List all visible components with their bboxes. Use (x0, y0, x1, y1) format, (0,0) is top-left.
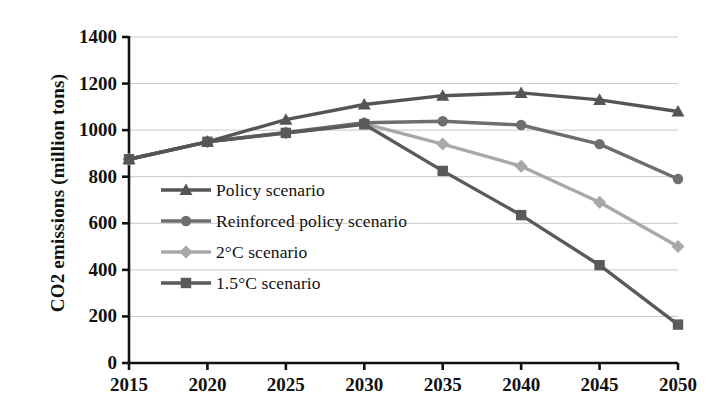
legend-swatch-diamond-icon (160, 243, 212, 261)
x-tick-label: 2020 (188, 374, 226, 396)
data-point-square (594, 260, 604, 270)
legend-item[interactable]: Reinforced policy scenario (160, 211, 407, 231)
x-tick-label: 2025 (267, 374, 305, 396)
x-tick-label: 2050 (659, 374, 697, 396)
legend-item[interactable]: Policy scenario (160, 180, 407, 200)
x-tick-label: 2040 (502, 374, 540, 396)
data-point-circle (673, 174, 683, 184)
legend-item[interactable]: 1.5°C scenario (160, 273, 407, 293)
legend-item[interactable]: 2°C scenario (160, 242, 407, 262)
data-point-circle (181, 216, 191, 226)
legend-label: Policy scenario (216, 180, 325, 201)
data-point-circle (594, 139, 604, 149)
data-point-square (516, 210, 526, 220)
series-reinforced-policy-scenario (124, 116, 683, 184)
data-point-square (281, 128, 291, 138)
co2-emissions-line-chart: CO2 emissions (million tons) 14001200100… (0, 0, 706, 420)
data-point-diamond (672, 240, 685, 253)
data-point-circle (516, 120, 526, 130)
data-point-diamond (180, 246, 193, 259)
x-tick-label: 2030 (345, 374, 383, 396)
data-point-square (359, 119, 369, 129)
data-point-square (438, 166, 448, 176)
legend-label: Reinforced policy scenario (216, 211, 407, 232)
x-tick-label: 2015 (110, 374, 148, 396)
data-point-diamond (436, 138, 449, 151)
x-tick-label: 2045 (581, 374, 619, 396)
legend-label: 1.5°C scenario (216, 273, 321, 294)
legend-swatch-square-icon (160, 274, 212, 292)
legend-swatch-circle-icon (160, 212, 212, 230)
data-point-square (181, 278, 191, 288)
x-tick-label: 2035 (424, 374, 462, 396)
legend-swatch-triangle-icon (160, 181, 212, 199)
data-point-square (673, 319, 683, 329)
data-point-diamond (515, 160, 528, 173)
legend-label: 2°C scenario (216, 242, 307, 263)
data-point-circle (438, 116, 448, 126)
data-point-diamond (593, 196, 606, 209)
chart-legend: Policy scenarioReinforced policy scenari… (160, 180, 407, 293)
series-policy-scenario (123, 86, 685, 164)
